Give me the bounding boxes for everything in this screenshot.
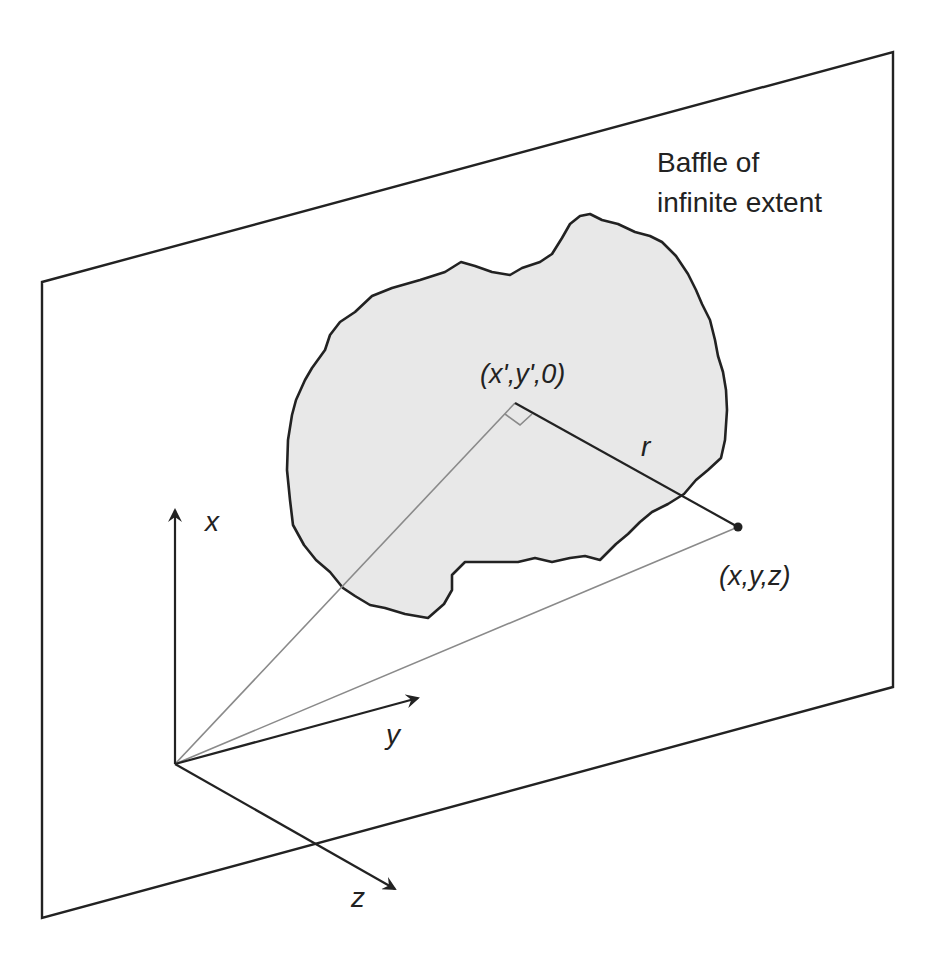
baffle-label-line1: Baffle of bbox=[657, 147, 759, 178]
y-axis-arrow bbox=[175, 698, 418, 764]
z-axis-arrow bbox=[175, 764, 395, 889]
field-point-label: (x,y,z) bbox=[719, 561, 790, 591]
z-axis-label: z bbox=[350, 882, 365, 913]
baffle-label-line2: infinite extent bbox=[657, 187, 822, 218]
x-axis-label: x bbox=[203, 506, 220, 537]
y-axis-label: y bbox=[384, 719, 402, 750]
source-point-label: (x',y',0) bbox=[480, 359, 565, 389]
baffle-aperture-diagram: Baffle of infinite extent (x',y',0) (x,y… bbox=[0, 0, 941, 956]
field-point-dot bbox=[734, 523, 743, 532]
